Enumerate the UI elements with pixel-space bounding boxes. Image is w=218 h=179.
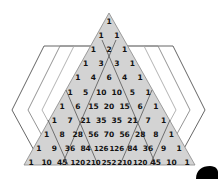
pascal-number: 1 [122, 45, 127, 54]
pascal-number: 1 [106, 17, 111, 26]
pascal-number: 10 [112, 88, 122, 97]
pascal-number: 7 [145, 116, 150, 125]
pascal-number: 7 [67, 116, 72, 125]
pascal-number: 9 [52, 144, 57, 153]
pascal-number: 45 [57, 158, 67, 167]
pascal-number: 1 [114, 31, 119, 40]
pascal-number: 10 [41, 158, 51, 167]
pascal-number: 28 [135, 130, 145, 139]
pascal-number: 1 [28, 158, 33, 167]
pascal-number: 35 [112, 116, 122, 125]
pascal-number: 5 [130, 88, 135, 97]
pascal-number: 120 [70, 159, 85, 167]
pascal-number: 1 [36, 144, 41, 153]
pascal-number: 2 [106, 45, 111, 54]
pascal-number: 56 [88, 130, 98, 139]
pascal-number: 210 [117, 159, 132, 167]
pascal-number: 1 [130, 59, 135, 68]
pascal-number: 6 [75, 102, 80, 111]
pascal-number: 1 [99, 31, 104, 40]
pascal-number: 1 [145, 88, 150, 97]
pascal-number: 35 [96, 116, 106, 125]
pascal-number: 1 [60, 102, 65, 111]
pascal-number: 8 [60, 130, 65, 139]
pascal-number: 1 [184, 158, 189, 167]
pascal-number: 1 [52, 116, 57, 125]
pascal-number: 70 [104, 130, 114, 139]
pascal-number: 120 [133, 159, 148, 167]
pascal-number: 21 [80, 116, 90, 125]
pascal-number: 84 [80, 144, 90, 153]
pascal-number: 10 [166, 158, 176, 167]
pascal-number: 1 [91, 45, 96, 54]
pascal-number: 1 [161, 116, 166, 125]
pascal-number: 6 [106, 73, 111, 82]
pascal-number: 10 [96, 88, 106, 97]
pascal-number: 36 [65, 144, 75, 153]
pascal-number: 252 [102, 159, 117, 167]
pascal-number: 15 [88, 102, 98, 111]
pascal-number: 3 [99, 59, 104, 68]
pascal-number: 8 [153, 130, 158, 139]
pascal-number: 1 [83, 59, 88, 68]
pascal-number: 21 [127, 116, 137, 125]
pascal-number: 28 [73, 130, 83, 139]
pascal-number: 45 [151, 158, 161, 167]
pascal-number: 3 [114, 59, 119, 68]
pascal-number: 9 [161, 144, 166, 153]
pascal-number: 1 [67, 88, 72, 97]
pascal-number: 1 [153, 102, 158, 111]
pascal-number: 20 [104, 102, 114, 111]
pascal-diagram: 1111211331146411510105116152015611721353… [0, 0, 218, 179]
pascal-number: 1 [138, 73, 143, 82]
pascal-number: 1 [75, 73, 80, 82]
pascal-number: 15 [119, 102, 129, 111]
pascal-number: 126 [109, 145, 124, 153]
black-blob-shape [196, 166, 218, 179]
pascal-number: 56 [119, 130, 129, 139]
pascal-number: 126 [94, 145, 109, 153]
pascal-number: 4 [122, 73, 127, 82]
pascal-number: 1 [177, 144, 182, 153]
pascal-number: 1 [44, 130, 49, 139]
pascal-number: 6 [138, 102, 143, 111]
pascal-triangle-shape [24, 13, 195, 165]
pascal-number: 84 [127, 144, 137, 153]
pascal-number: 1 [169, 130, 174, 139]
pascal-number: 210 [86, 159, 101, 167]
pascal-number: 36 [143, 144, 153, 153]
pascal-number: 5 [83, 88, 88, 97]
pascal-number: 4 [91, 73, 96, 82]
